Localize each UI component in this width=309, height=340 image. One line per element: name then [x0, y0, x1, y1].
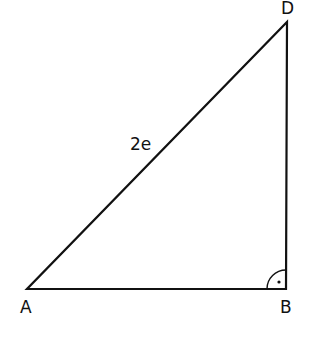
vertex-label-a: A: [20, 299, 32, 316]
vertex-label-d: D: [281, 0, 294, 17]
triangle-figure: [0, 0, 309, 340]
triangle-abd: [27, 22, 287, 289]
right-angle-dot: [277, 280, 280, 283]
vertex-label-b: B: [280, 299, 292, 316]
right-angle-arc: [267, 270, 286, 289]
hypotenuse-label: 2e: [130, 136, 151, 153]
